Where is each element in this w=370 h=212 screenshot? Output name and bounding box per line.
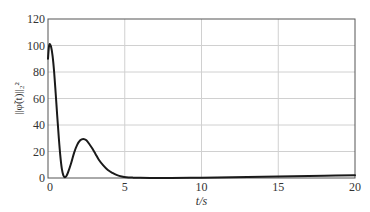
y-axis-ticks: 020406080100120 bbox=[27, 12, 45, 185]
x-axis-label: t/s bbox=[196, 194, 208, 208]
line-chart: 020406080100120 05101520 t/s ||φ̃(t)||₂² bbox=[0, 0, 370, 212]
y-tick-label: 40 bbox=[33, 118, 45, 132]
y-tick-label: 60 bbox=[33, 92, 45, 106]
y-tick-label: 100 bbox=[27, 39, 45, 53]
y-tick-label: 0 bbox=[39, 171, 45, 185]
y-tick-label: 120 bbox=[27, 12, 45, 26]
x-tick-label: 15 bbox=[272, 180, 284, 194]
x-axis-ticks: 05101520 bbox=[47, 180, 361, 194]
grid-lines bbox=[48, 19, 355, 178]
y-tick-label: 20 bbox=[33, 145, 45, 159]
x-tick-label: 5 bbox=[122, 180, 128, 194]
y-axis-label: ||φ̃(t)||₂² bbox=[12, 81, 25, 114]
x-tick-label: 10 bbox=[196, 180, 208, 194]
x-tick-label: 20 bbox=[349, 180, 361, 194]
x-tick-label: 0 bbox=[47, 180, 53, 194]
y-tick-label: 80 bbox=[33, 65, 45, 79]
